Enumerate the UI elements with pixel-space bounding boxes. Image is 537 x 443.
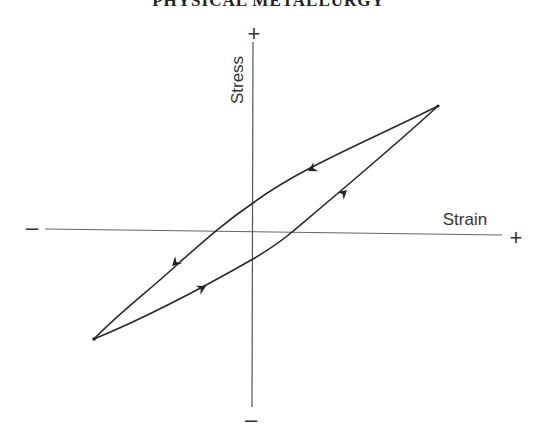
- loop-upper-branch: [94, 106, 438, 339]
- strain-positive-sign: +: [510, 225, 523, 250]
- loop-tip-compression: [92, 337, 96, 341]
- loop-lower-branch: [94, 106, 438, 339]
- strain-axis: [45, 229, 502, 235]
- arrow-lower-2-icon: [196, 282, 209, 295]
- hysteresis-diagram: + – – + Strain Stress: [0, 0, 537, 443]
- stress-axis: [252, 42, 253, 407]
- strain-axis-label: Strain: [443, 210, 487, 229]
- strain-negative-sign: –: [26, 215, 39, 240]
- stress-negative-sign: –: [245, 407, 258, 432]
- stress-axis-label: Stress: [228, 56, 247, 104]
- loop-tip-tension: [436, 104, 439, 107]
- stress-positive-sign: +: [248, 21, 261, 46]
